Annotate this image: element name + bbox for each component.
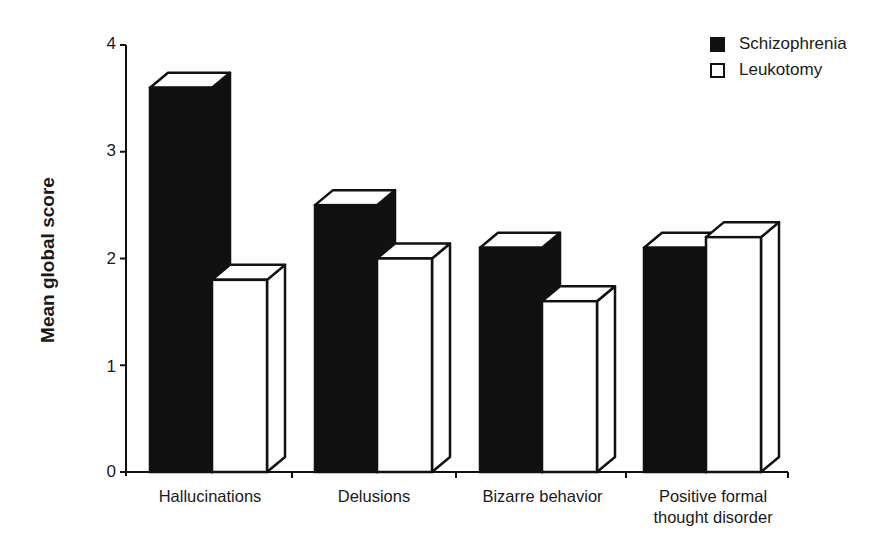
bar-leukotomy-2 bbox=[542, 286, 615, 472]
category-label: Delusions bbox=[294, 486, 454, 507]
y-tick-0: 0 bbox=[96, 462, 116, 482]
legend-swatch-empty-icon bbox=[710, 63, 725, 78]
x-category-bizarre-behavior: Bizarre behavior bbox=[455, 486, 630, 507]
bar-leukotomy-1 bbox=[377, 244, 450, 473]
bar-leukotomy-3 bbox=[706, 222, 779, 472]
category-label: Bizarre behavior bbox=[455, 486, 630, 507]
legend: Schizophrenia Leukotomy bbox=[710, 32, 847, 84]
category-label-line1: Positive formal bbox=[628, 486, 798, 507]
y-tick-3: 3 bbox=[96, 141, 116, 161]
x-category-hallucinations: Hallucinations bbox=[130, 486, 290, 507]
bars bbox=[150, 73, 779, 472]
legend-item-leukotomy: Leukotomy bbox=[710, 58, 847, 82]
y-tick-4: 4 bbox=[96, 34, 116, 54]
legend-swatch-filled-icon bbox=[710, 37, 725, 52]
legend-label: Schizophrenia bbox=[739, 34, 847, 54]
x-category-delusions: Delusions bbox=[294, 486, 454, 507]
x-category-positive-formal-thought-disorder: Positive formal thought disorder bbox=[628, 486, 798, 528]
y-axis-label: Mean global score bbox=[37, 177, 59, 343]
legend-label: Leukotomy bbox=[739, 60, 822, 80]
legend-item-schizophrenia: Schizophrenia bbox=[710, 32, 847, 56]
category-label-line2: thought disorder bbox=[628, 507, 798, 528]
bar-leukotomy-0 bbox=[212, 265, 285, 472]
category-label: Hallucinations bbox=[130, 486, 290, 507]
y-tick-1: 1 bbox=[96, 357, 116, 377]
y-tick-2: 2 bbox=[96, 249, 116, 269]
